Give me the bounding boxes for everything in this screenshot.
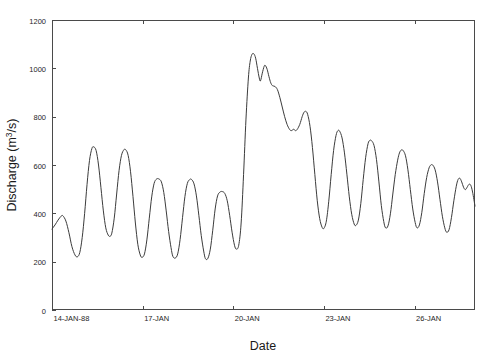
- discharge-series-line: [52, 53, 475, 259]
- x-tick-label: 17-JAN: [144, 314, 169, 323]
- y-tick-label: 600: [33, 162, 46, 171]
- x-tick-label: 14-JAN-88: [54, 314, 90, 323]
- x-tick-label: 26-JAN: [416, 314, 441, 323]
- svg-text:Discharge (m3/s): Discharge (m3/s): [4, 119, 19, 212]
- y-tick-label: 1200: [29, 17, 46, 26]
- x-axis: 14-JAN-8817-JAN20-JAN23-JAN26-JAN: [53, 20, 442, 323]
- plot-frame: [53, 21, 475, 310]
- y-axis: 020040060080010001200: [29, 17, 56, 316]
- y-tick-label: 0: [42, 307, 46, 316]
- y-axis-title-post: /s): [5, 119, 19, 133]
- y-tick-label: 200: [33, 258, 46, 267]
- y-tick-label: 800: [33, 113, 46, 122]
- y-tick-label: 400: [33, 210, 46, 219]
- x-tick-label: 20-JAN: [235, 314, 260, 323]
- y-axis-title-pre: Discharge (m: [5, 137, 19, 211]
- y-axis-title: Discharge (m3/s): [4, 119, 19, 212]
- discharge-hydrograph-chart: 020040060080010001200 14-JAN-8817-JAN20-…: [0, 0, 481, 359]
- x-axis-title: Date: [250, 339, 276, 353]
- y-tick-label: 1000: [29, 65, 46, 74]
- x-tick-label: 23-JAN: [325, 314, 350, 323]
- chart-container: 020040060080010001200 14-JAN-8817-JAN20-…: [0, 0, 481, 359]
